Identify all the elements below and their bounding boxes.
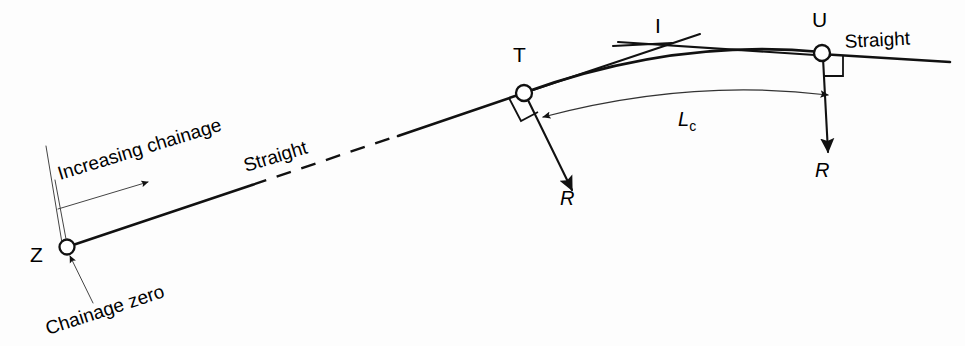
circular-curve-path — [526, 49, 822, 92]
diagram-canvas: Z T I U Increasing chainage Chainage zer… — [0, 0, 965, 346]
increasing-chainage-label: Increasing chainage — [55, 114, 224, 184]
curve-length-label: Lc — [678, 108, 696, 134]
back-tangent-group — [67, 92, 527, 247]
curve-length-symbol: L — [678, 108, 689, 130]
curve-chainage-diagram: Z T I U Increasing chainage Chainage zer… — [0, 0, 965, 346]
radius-arrow-t — [526, 96, 572, 190]
chainage-zero-leader-arrow — [70, 256, 93, 303]
chainage-tick-vertical — [46, 146, 62, 243]
radius-arrow-u-group — [823, 55, 843, 152]
curve-length-subscript: c — [689, 118, 696, 134]
point-label-u: U — [812, 8, 827, 31]
radius-arrow-u — [823, 58, 828, 152]
node-marker-z — [60, 240, 75, 255]
chainage-zero-label: Chainage zero — [43, 281, 167, 339]
radius-label-t: R — [560, 187, 574, 209]
radius-label-u: R — [815, 159, 829, 181]
tangent-production-group — [521, 34, 830, 94]
point-label-z: Z — [30, 243, 43, 266]
node-marker-u — [814, 45, 830, 61]
back-tangent-solid-lower — [67, 185, 252, 247]
increasing-chainage-arrow — [58, 182, 148, 209]
node-marker-t — [516, 85, 532, 101]
straight-label-left: Straight — [241, 136, 310, 175]
point-label-i: I — [655, 14, 661, 37]
point-label-t: T — [513, 43, 526, 66]
back-tangent-solid-upper — [398, 92, 527, 136]
radius-arrow-t-group — [509, 96, 572, 190]
forward-straight-line — [820, 54, 950, 62]
straight-label-right: Straight — [844, 28, 911, 52]
